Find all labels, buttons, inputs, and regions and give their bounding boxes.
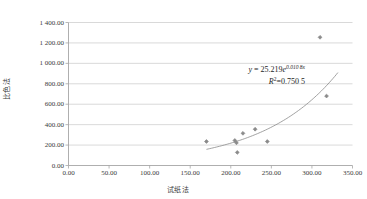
x-axis-tick-label: 300.00	[289, 169, 335, 177]
x-axis-tick-label: 250.00	[248, 169, 294, 177]
data-point	[265, 140, 269, 144]
x-axis-tick-label: 100.00	[127, 169, 173, 177]
x-axis-tick-label: 200.00	[208, 169, 254, 177]
x-axis-tick-label: 350.00	[330, 169, 367, 177]
data-point	[205, 140, 209, 144]
data-point	[241, 131, 245, 135]
x-axis-tick-label: 150.00	[167, 169, 213, 177]
data-point	[318, 35, 322, 39]
data-point	[325, 94, 329, 98]
x-axis-tick-label: 50.00	[86, 169, 132, 177]
x-axis-title: 试纸法	[0, 184, 356, 194]
x-axis-tick-labels: 0.0050.00100.00150.00200.00250.00300.003…	[0, 169, 356, 183]
trendline-r-squared: R2=0.750 5	[268, 76, 305, 86]
data-point	[253, 127, 257, 131]
x-axis-tick-label: 0.00	[46, 169, 92, 177]
trendline-equation: y = 25.219e0.010 8x	[247, 64, 305, 74]
data-point	[235, 151, 239, 155]
